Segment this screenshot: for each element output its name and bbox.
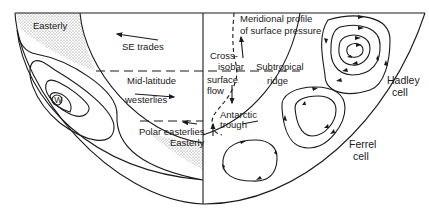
hadley-loop-2 (331, 25, 380, 75)
subtropical-ridge-label-line2: ridge (267, 75, 288, 86)
hadley-cell-label-line2: cell (392, 86, 408, 98)
cross-isobar-arrow-up (241, 37, 243, 58)
ferrel-arrowhead (302, 101, 306, 105)
meridional-profile-label-line1: Meridional profile (240, 13, 312, 24)
westerlies-label: westerlies (124, 94, 167, 105)
mid-latitude-label: Mid-latitude (127, 75, 176, 86)
antarctic-trough-label-line2: trough (220, 119, 247, 130)
se-trades-arrow (117, 34, 158, 40)
polar-easterlies-arrow (183, 122, 197, 124)
w-label: W (54, 95, 62, 105)
hadley-arrowhead (336, 78, 342, 82)
ferrel-cell-label-line2: cell (353, 150, 369, 162)
cross-isobar-label-line4: flow (207, 85, 224, 96)
meridional-profile-label-line2: of surface pressure (240, 25, 321, 36)
polar-easterlies-label: Polar easterlies (139, 126, 205, 137)
ferrel-cell-label-line1: Ferrel (349, 138, 376, 150)
ferrel-arrowhead (240, 141, 246, 144)
general-circulation-diagram: W Easterly SE trades Mid-latitude wester… (0, 0, 429, 215)
hadley-cell-label-line1: Hadley (387, 74, 420, 86)
hadley-arrowhead (342, 68, 348, 72)
cross-isobar-label-line1: Cross- (210, 50, 238, 61)
ferrel-lower-loop (223, 140, 277, 181)
easterly-bottom-label: Easterly (170, 137, 205, 148)
ferrel-arrowhead (283, 115, 287, 121)
ferrel-loop-inner (295, 96, 336, 136)
westerly-contour-4 (17, 30, 203, 180)
ferrel-arrowhead (312, 87, 318, 91)
se-trades-label: SE trades (122, 41, 164, 52)
subtropical-ridge-label-line1: Subtropical (256, 61, 304, 72)
easterly-top-label: Easterly (33, 20, 68, 31)
hadley-loop-3 (339, 35, 370, 65)
cross-isobar-label-line2: isobar (218, 61, 244, 72)
hadley-loop-inner (347, 44, 363, 58)
cross-isobar-label-line3: surface (207, 74, 238, 85)
hadley-arrowhead (355, 36, 361, 40)
hadley-arrowhead (352, 61, 358, 65)
hadley-arrowhead (324, 38, 328, 44)
hadley-arrowhead (358, 15, 364, 19)
ferrel-arrowhead (324, 124, 329, 128)
ferrel-arrowhead (256, 176, 262, 180)
